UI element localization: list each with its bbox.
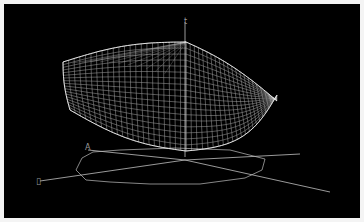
plot-viewport: t A ▯ — [4, 4, 360, 218]
z-axis-label: t — [184, 18, 187, 26]
y-axis-label: ▯ — [36, 177, 41, 185]
wireframe-plot — [4, 4, 360, 218]
x-axis-label: A — [85, 144, 90, 152]
